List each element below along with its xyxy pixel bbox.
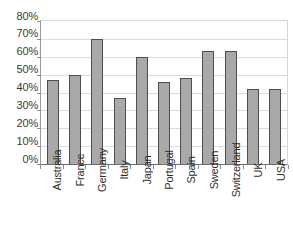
x-tick-label: Australia	[52, 150, 63, 191]
y-tick-label: 80%	[4, 10, 38, 21]
bar-slot	[109, 21, 131, 164]
bar-slot	[264, 21, 286, 164]
x-tick-label: UK	[253, 163, 264, 178]
x-tick-label: Italy	[119, 160, 130, 179]
bar	[91, 39, 103, 164]
y-tick-label: 20%	[4, 117, 38, 128]
bar	[69, 75, 81, 164]
x-tick-mark	[243, 165, 244, 169]
x-label-slot: Germany	[86, 170, 108, 246]
bar-slot	[86, 21, 108, 164]
bar	[269, 89, 281, 164]
bar	[136, 57, 148, 164]
bar-slot	[242, 21, 264, 164]
x-label-slot: Italy	[108, 170, 130, 246]
y-tick-label: 30%	[4, 99, 38, 110]
x-label-slot: France	[63, 170, 85, 246]
x-tick-label: Sweden	[209, 151, 220, 190]
x-label-slot: Switzerland	[220, 170, 242, 246]
x-label-slot: USA	[265, 170, 287, 246]
x-tick-mark	[175, 165, 176, 169]
y-axis: 0%10%20%30%40%50%60%70%80%	[4, 15, 38, 165]
y-tick-label: 0%	[4, 153, 38, 164]
bar	[247, 89, 259, 164]
x-tick-label: France	[75, 153, 86, 186]
bar	[180, 78, 192, 164]
x-label-slot: Portugal	[153, 170, 175, 246]
x-tick-label: Japan	[142, 156, 153, 185]
x-axis: AustraliaFranceGermanyItalyJapanPortugal…	[40, 170, 288, 246]
bar-slot	[131, 21, 153, 164]
x-tick-label: Spain	[186, 156, 197, 183]
x-tick-mark	[220, 165, 221, 169]
bar-slot	[175, 21, 197, 164]
bar-slot	[42, 21, 64, 164]
y-tick-label: 70%	[4, 28, 38, 39]
bar-slot	[197, 21, 219, 164]
plot-area	[40, 20, 288, 165]
x-label-slot: Spain	[175, 170, 197, 246]
y-tick-label: 40%	[4, 82, 38, 93]
x-tick-mark	[265, 165, 266, 169]
x-tick-label: Switzerland	[231, 143, 242, 198]
x-label-slot: Sweden	[198, 170, 220, 246]
x-tick-label: Germany	[97, 148, 108, 192]
x-tick-label: USA	[276, 159, 287, 181]
x-tick-mark	[198, 165, 199, 169]
y-tick-label: 50%	[4, 64, 38, 75]
bar	[202, 51, 214, 164]
x-tick-label: Portugal	[164, 150, 175, 189]
x-label-slot: Australia	[41, 170, 63, 246]
x-tick-mark	[40, 165, 41, 169]
bar-slot	[153, 21, 175, 164]
x-label-slot: Japan	[130, 170, 152, 246]
x-tick-mark	[130, 165, 131, 169]
bars-group	[41, 21, 287, 164]
x-label-slot: UK	[242, 170, 264, 246]
bar-chart: 0%10%20%30%40%50%60%70%80% AustraliaFran…	[0, 0, 293, 248]
y-tick-label: 10%	[4, 135, 38, 146]
y-tick-label: 60%	[4, 46, 38, 57]
x-tick-mark	[288, 165, 289, 169]
bar	[114, 98, 126, 164]
bar-slot	[64, 21, 86, 164]
